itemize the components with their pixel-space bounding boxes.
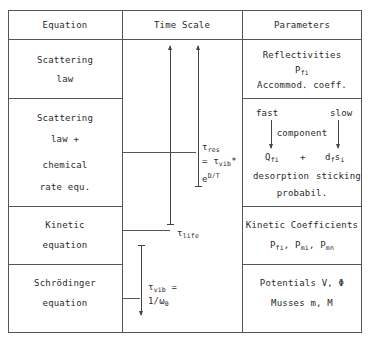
equation-row2-line2: law + (8, 134, 122, 145)
header-equation: Equation (8, 20, 122, 31)
param-row3-line1: Kinetic Coefficients (242, 220, 362, 231)
tau-res-exp-label: eD/T (202, 171, 220, 185)
equation-row1-line1: Scattering (8, 55, 122, 66)
tau-res-eq-label: = τvib* (202, 156, 237, 170)
tau-life-end-tick (167, 224, 174, 225)
param-component: component (242, 128, 362, 139)
param-row3-line2: Pfi, Pmi, Pmn (242, 240, 362, 254)
param-row1-line2: Pfi (242, 65, 362, 79)
tau-vib-start-tick (138, 245, 145, 246)
equation-row1-line2: law (8, 74, 122, 85)
param-row4-line2: Musses m, M (242, 298, 362, 309)
row-divider-param-2 (242, 206, 362, 207)
param-fast: fast (256, 108, 278, 119)
param-ds: dfsi (325, 152, 345, 166)
tau-res-arrow (198, 46, 199, 186)
tau-vib-label: τvib = (148, 282, 177, 296)
header-time-scale: Time Scale (122, 20, 242, 31)
tau-res-label: τres (202, 142, 220, 156)
row-divider-eq-1 (8, 98, 122, 99)
row-divider-eq-2 (8, 206, 122, 207)
omega-label: 1/ω0 (148, 296, 169, 310)
equation-row3-line2: equation (8, 240, 122, 251)
column-divider-1 (122, 10, 123, 333)
param-desorption: desorption (253, 171, 309, 182)
connector-row2-left (122, 152, 170, 153)
param-sticking: sticking (316, 171, 361, 182)
param-probabil: probabil. (242, 188, 362, 199)
param-slow: slow (330, 108, 352, 119)
connector-row2-right (171, 152, 196, 153)
connector-row4-left (122, 298, 140, 299)
param-row4-line1: Potentials V, Φ (242, 278, 362, 289)
equation-row2-line3: chemical (8, 160, 122, 171)
tau-life-arrow (170, 46, 171, 224)
param-row1-line3: Accommod. coeff. (242, 80, 362, 91)
param-q: Qfi (265, 152, 279, 166)
equation-row2-line1: Scattering (8, 113, 122, 124)
tau-life-label: τlife (177, 228, 199, 242)
param-plus: + (300, 152, 306, 163)
tau-res-end-tick (195, 186, 202, 187)
equation-row4-line2: equation (8, 298, 122, 309)
header-parameters: Parameters (242, 20, 362, 31)
equation-row3-line1: Kinetic (8, 220, 122, 231)
row-divider-param-3 (242, 264, 362, 265)
equation-row4-line1: Schrödinger (8, 278, 122, 289)
header-divider (8, 39, 362, 40)
equation-row2-line4: rate equ. (8, 182, 122, 193)
param-row1-line1: Reflectivities (242, 50, 362, 61)
row-divider-eq-3 (8, 264, 122, 265)
row-divider-param-1 (242, 98, 362, 99)
connector-row3-left (122, 230, 170, 231)
tau-vib-arrow (141, 245, 142, 315)
